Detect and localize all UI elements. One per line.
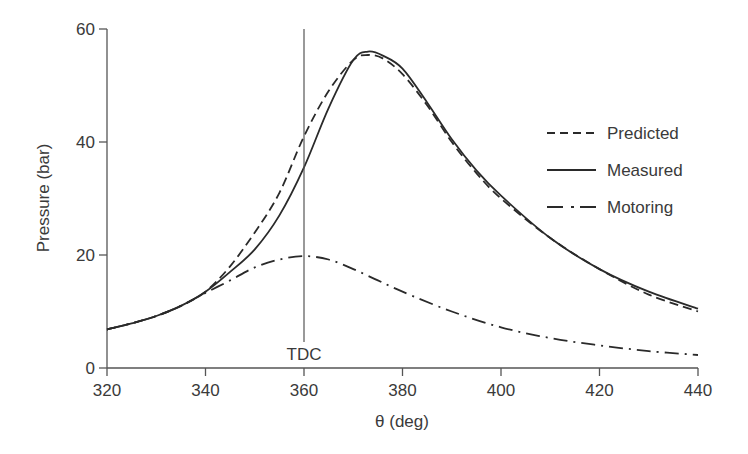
legend: PredictedMeasuredMotoring — [547, 124, 683, 217]
x-tick-label: 320 — [93, 381, 121, 400]
series-line-predicted — [107, 55, 698, 330]
x-tick-label: 360 — [290, 381, 318, 400]
x-tick-label: 340 — [191, 381, 219, 400]
x-tick-label: 380 — [388, 381, 416, 400]
y-tick-label: 40 — [76, 133, 95, 152]
x-tick-label: 400 — [487, 381, 515, 400]
y-axis-label: Pressure (bar) — [34, 144, 53, 253]
y-tick-label: 60 — [76, 20, 95, 39]
tdc-label: TDC — [287, 345, 322, 364]
legend-label-predicted: Predicted — [607, 124, 679, 143]
x-tick-label: 420 — [585, 381, 613, 400]
x-tick-label: 440 — [684, 381, 712, 400]
legend-label-measured: Measured — [607, 161, 683, 180]
pressure-chart: 0204060320340360380400420440 TDC Predict… — [0, 0, 748, 454]
y-tick-label: 0 — [86, 359, 95, 378]
y-tick-label: 20 — [76, 246, 95, 265]
x-axis-label: θ (deg) — [375, 412, 429, 431]
annotation-group: TDC — [287, 29, 322, 364]
series-line-motoring — [107, 256, 698, 355]
legend-label-motoring: Motoring — [607, 198, 673, 217]
series-line-measured — [107, 51, 698, 329]
